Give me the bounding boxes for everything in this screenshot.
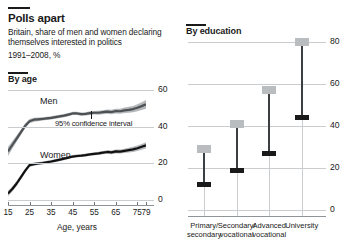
x-tick bbox=[146, 202, 147, 205]
x-tick bbox=[51, 202, 52, 205]
category-label-line2: vocational bbox=[252, 230, 286, 239]
title-rule bbox=[8, 7, 30, 9]
range-marker-low bbox=[197, 182, 211, 187]
x-tick bbox=[30, 202, 31, 205]
x-tick bbox=[8, 202, 9, 205]
gridline bbox=[188, 210, 326, 211]
by-education-title: By education bbox=[186, 26, 241, 36]
y-tick-label: 60 bbox=[330, 78, 340, 88]
category-label-line1: University bbox=[285, 221, 318, 230]
range-marker-high bbox=[197, 145, 211, 153]
x-tick-label: 79 bbox=[134, 208, 158, 217]
x-tick-label: 45 bbox=[61, 208, 85, 217]
range-stem bbox=[301, 42, 303, 118]
range-stem bbox=[268, 90, 270, 153]
gridline bbox=[8, 200, 154, 201]
range-marker-low bbox=[262, 151, 276, 156]
series-label-women: Women bbox=[40, 150, 71, 160]
range-marker-high bbox=[230, 120, 244, 128]
by-education-plot: 020406080Primary/secondarySecondary/voca… bbox=[188, 42, 318, 210]
by-age-panel: Polls apart Britain, share of men and wo… bbox=[0, 0, 178, 242]
gridline bbox=[188, 126, 326, 127]
subtitle-line-2: themselves interested in politics bbox=[8, 37, 122, 47]
x-tick-label: 35 bbox=[39, 208, 63, 217]
y-tick-label: 40 bbox=[158, 121, 168, 131]
subtitle-line-1: Britain, share of men and women declarin… bbox=[8, 27, 162, 37]
gridline bbox=[8, 90, 154, 91]
category-label: University bbox=[272, 221, 332, 230]
page-title: Polls apart bbox=[8, 12, 65, 24]
y-tick-label: 0 bbox=[158, 194, 163, 204]
gridline bbox=[188, 84, 326, 85]
y-tick-label: 0 bbox=[330, 204, 335, 214]
by-age-title: By age bbox=[8, 74, 37, 84]
range-marker-high bbox=[295, 38, 309, 46]
x-tick bbox=[116, 202, 117, 205]
y-tick-label: 60 bbox=[158, 84, 168, 94]
by-age-series-svg bbox=[8, 90, 146, 200]
x-axis-line bbox=[8, 205, 154, 206]
x-tick-label: 65 bbox=[104, 208, 128, 217]
y-tick-label: 20 bbox=[158, 157, 168, 167]
y-tick-label: 80 bbox=[330, 36, 340, 46]
y-tick-label: 20 bbox=[330, 162, 340, 172]
x-tick bbox=[137, 202, 138, 205]
y-tick-label: 40 bbox=[330, 120, 340, 130]
x-axis-line bbox=[188, 216, 326, 217]
range-stem bbox=[236, 124, 238, 170]
range-stem bbox=[203, 149, 205, 185]
subtitle-line-3: 1991–2008, % bbox=[8, 50, 60, 60]
by-education-panel: By education 020406080Primary/secondaryS… bbox=[178, 0, 352, 242]
ci-arrow bbox=[91, 111, 92, 119]
gridline bbox=[8, 163, 154, 164]
range-marker-high bbox=[262, 86, 276, 94]
gridline bbox=[188, 168, 326, 169]
x-tick bbox=[73, 202, 74, 205]
by-age-plot: 02040601525354555657579 bbox=[8, 90, 146, 200]
x-tick-label: 55 bbox=[82, 208, 106, 217]
x-axis-title: Age, years bbox=[8, 222, 146, 232]
series-label-men: Men bbox=[40, 96, 58, 106]
x-tick-label: 25 bbox=[18, 208, 42, 217]
ci-annotation: 95% confidence interval bbox=[55, 119, 132, 128]
x-tick bbox=[94, 202, 95, 205]
range-marker-low bbox=[230, 168, 244, 173]
range-marker-low bbox=[295, 115, 309, 120]
